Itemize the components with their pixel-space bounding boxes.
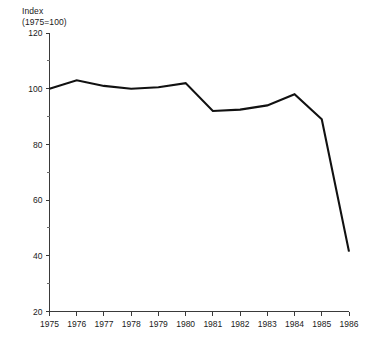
x-tick-label: 1978 bbox=[122, 319, 141, 329]
x-tick-label: 1979 bbox=[149, 319, 168, 329]
x-tick-label: 1976 bbox=[67, 319, 86, 329]
y-tick-label: 60 bbox=[33, 195, 43, 205]
x-tick-label: 1984 bbox=[285, 319, 304, 329]
x-tick-label: 1985 bbox=[312, 319, 331, 329]
y-tick-label: 20 bbox=[33, 307, 43, 317]
x-tick-label: 1980 bbox=[176, 319, 195, 329]
y-tick-group bbox=[46, 33, 50, 312]
y-tick-label: 100 bbox=[28, 84, 42, 94]
x-tick-label: 1983 bbox=[258, 319, 277, 329]
x-tick-group bbox=[50, 312, 350, 316]
line-chart-plot: 20406080100120 1975197619771978197919801… bbox=[0, 0, 374, 339]
y-axis bbox=[46, 33, 50, 312]
y-tick-label: 120 bbox=[28, 28, 42, 38]
x-tick-label: 1986 bbox=[340, 319, 359, 329]
x-axis bbox=[49, 312, 349, 316]
chart-container: Index(1975=100) 20406080100120 197519761… bbox=[0, 0, 374, 339]
x-tick-label-group: 1975197619771978197919801981198219831984… bbox=[40, 319, 359, 329]
y-tick-label-group: 20406080100120 bbox=[28, 28, 42, 317]
x-tick-label: 1977 bbox=[94, 319, 113, 329]
series-line-index bbox=[50, 80, 350, 251]
x-tick-label: 1982 bbox=[231, 319, 250, 329]
y-tick-label: 40 bbox=[33, 251, 43, 261]
y-tick-label: 80 bbox=[33, 140, 43, 150]
x-tick-label: 1975 bbox=[40, 319, 59, 329]
data-series-group bbox=[50, 80, 350, 251]
x-tick-label: 1981 bbox=[203, 319, 222, 329]
